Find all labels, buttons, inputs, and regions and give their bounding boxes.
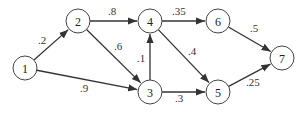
node-6: 6 [206,9,230,33]
edge-weight-label: .25 [246,76,260,88]
edge-weight-label: .35 [172,5,186,17]
edge-weight-label: .6 [114,40,123,52]
edge-weight-label: .2 [38,34,46,46]
graph-diagram: .2.9.8.6.1.35.4.3.5.25 1234567 [0,0,306,114]
edge-1-2: .2 [34,30,68,60]
edge-5-7: .25 [229,64,271,88]
edge-3-4: .1 [137,34,150,80]
edge-weight-label: .3 [175,92,184,104]
node-1: 1 [13,56,37,80]
node-label: 6 [215,15,221,29]
node-7: 7 [270,46,294,70]
edge-4-6: .35 [162,5,205,21]
node-4: 4 [138,9,162,33]
edge-6-7: .5 [228,22,270,51]
edge-1-3: .9 [37,70,137,94]
edge-2-4: .8 [90,5,137,21]
node-label: 3 [147,86,153,100]
node-2: 2 [66,9,90,33]
edge-2-3: .6 [87,29,141,82]
arrow-icon [87,29,141,82]
node-5: 5 [206,80,230,104]
edge-weight-label: .5 [250,22,259,34]
node-3: 3 [138,80,162,104]
node-label: 4 [147,15,153,29]
node-label: 5 [215,86,221,100]
arrow-icon [158,30,209,83]
edge-weight-label: .9 [80,82,89,94]
node-label: 2 [75,15,81,29]
node-label: 1 [22,62,28,76]
node-label: 7 [279,52,285,66]
edge-3-5: .3 [162,92,205,104]
edge-weight-label: .4 [188,45,197,57]
edge-weight-label: .8 [108,5,117,17]
edge-4-5: .4 [158,30,209,83]
edge-weight-label: .1 [137,52,145,64]
